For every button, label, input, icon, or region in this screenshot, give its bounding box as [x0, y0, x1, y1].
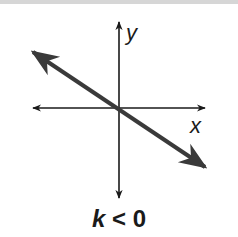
caption-variable: k — [92, 205, 105, 232]
x-axis-label: x — [190, 115, 201, 137]
coordinate-plane — [0, 0, 238, 237]
slope-condition-caption: k < 0 — [0, 207, 238, 231]
y-axis-label: y — [126, 22, 137, 44]
caption-relation: < 0 — [105, 205, 146, 232]
